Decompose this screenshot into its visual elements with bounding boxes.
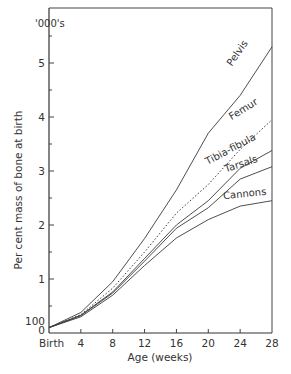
y-tick-label: 1	[38, 273, 45, 285]
x-tick-label: 12	[138, 337, 151, 349]
x-tick-label: 16	[170, 337, 184, 349]
series-line-femur	[49, 120, 272, 328]
series-label-pelvis: Pelvis	[224, 38, 249, 68]
y-axis-label: Per cent mass of bone at birth	[12, 111, 24, 270]
series-line-pelvis	[49, 47, 272, 328]
series-label-femur: Femur	[227, 96, 260, 123]
y-tick-label: 4	[38, 111, 45, 123]
x-tick-label: 20	[202, 337, 215, 349]
x-tick-label: 8	[109, 337, 116, 349]
series-label-cannons: Cannons	[222, 186, 266, 201]
x-tick-label: 28	[265, 337, 278, 349]
y-tick-label: 2	[38, 219, 45, 231]
bone-mass-line-chart: 010012345 Birth481216202428 '000's Per c…	[0, 0, 291, 374]
series-line-tibia-fibula	[49, 150, 272, 327]
y-tick-label: 5	[38, 57, 45, 69]
x-axis-label: Age (weeks)	[128, 351, 193, 363]
x-tick-label: 4	[78, 337, 85, 349]
x-tick-label: Birth	[39, 337, 64, 349]
y-axis-ticks: 010012345	[25, 36, 54, 336]
y-unit-label: '000's	[35, 18, 65, 29]
y-tick-label: 3	[38, 165, 45, 177]
series-line-cannons	[49, 201, 272, 328]
y-tick-label: 100	[25, 315, 45, 327]
x-axis-ticks: Birth481216202428	[39, 329, 279, 349]
x-tick-label: 24	[233, 337, 247, 349]
series-labels: PelvisFemurTibia-fibulaTarsalsCannons	[202, 38, 266, 201]
series-lines	[49, 47, 272, 328]
